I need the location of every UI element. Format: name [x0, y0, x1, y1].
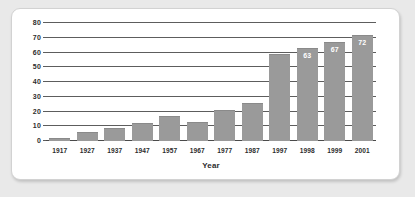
bar-slot: 1957	[156, 23, 184, 141]
bar[interactable]	[269, 54, 290, 141]
bar[interactable]: 67	[324, 42, 345, 141]
bar-slot: 1937	[101, 23, 129, 141]
bar[interactable]	[159, 116, 180, 141]
bar[interactable]	[104, 128, 125, 141]
x-tick-label: 1987	[239, 147, 267, 154]
bars-group: 1917192719371947195719671977198719976319…	[46, 23, 376, 141]
bar-slot: 1927	[74, 23, 102, 141]
bar[interactable]	[77, 132, 98, 141]
bar-slot: 1947	[129, 23, 157, 141]
x-tick-label: 1937	[101, 147, 129, 154]
bar[interactable]: 63	[297, 48, 318, 141]
y-tick-label: 30	[33, 92, 41, 99]
x-tick-label: 1977	[211, 147, 239, 154]
bar[interactable]	[214, 110, 235, 141]
bar-value-label: 67	[324, 46, 345, 53]
y-tick-label: 20	[33, 107, 41, 114]
plot-area: 01020304050607080 1917192719371947195719…	[46, 23, 376, 141]
x-tick-label: 1997	[266, 147, 294, 154]
bar-slot: 1997	[266, 23, 294, 141]
x-axis-title: Year	[46, 161, 376, 170]
bar[interactable]	[49, 138, 70, 141]
bar-slot: 1977	[211, 23, 239, 141]
y-tick-label: 70	[33, 33, 41, 40]
y-tick-label: 60	[33, 48, 41, 55]
y-tick-label: 80	[33, 19, 41, 26]
y-tick-label: 10	[33, 122, 41, 129]
bar-slot: 1967	[184, 23, 212, 141]
bar-slot: 1987	[239, 23, 267, 141]
x-tick-label: 1967	[184, 147, 212, 154]
x-tick-label: 1927	[74, 147, 102, 154]
bar-slot: 631998	[294, 23, 322, 141]
x-tick-label: 1998	[294, 147, 322, 154]
y-tick-label: 50	[33, 63, 41, 70]
bar-value-label: 72	[352, 39, 373, 46]
bar-slot: 671999	[321, 23, 349, 141]
bar[interactable]	[132, 123, 153, 141]
bar[interactable]	[187, 122, 208, 141]
bar-value-label: 63	[297, 52, 318, 59]
y-tick-label: 40	[33, 78, 41, 85]
x-tick-label: 2001	[349, 147, 377, 154]
bar[interactable]: 72	[352, 35, 373, 141]
bar[interactable]	[242, 103, 263, 141]
x-tick-label: 1957	[156, 147, 184, 154]
x-tick-label: 1947	[129, 147, 157, 154]
y-tick-label: 0	[37, 137, 41, 144]
bar-slot: 722001	[349, 23, 377, 141]
x-tick-label: 1999	[321, 147, 349, 154]
chart-card: 01020304050607080 1917192719371947195719…	[11, 8, 400, 180]
bar-slot: 1917	[46, 23, 74, 141]
x-tick-label: 1917	[46, 147, 74, 154]
